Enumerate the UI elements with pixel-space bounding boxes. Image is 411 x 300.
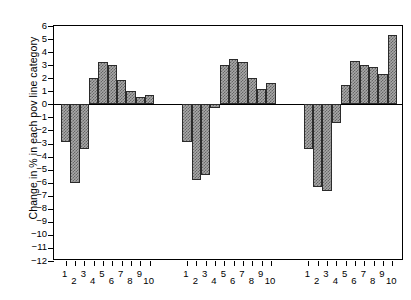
x-tick xyxy=(103,261,104,266)
y-tick-label: −11 xyxy=(21,242,47,252)
bar xyxy=(80,104,89,148)
x-tick xyxy=(206,261,207,266)
y-tick-label: −4 xyxy=(21,151,47,161)
bar xyxy=(117,80,126,104)
y-tick-label: −8 xyxy=(21,203,47,213)
x-tick xyxy=(271,261,272,266)
y-tick-label: 3 xyxy=(21,60,47,70)
x-tick xyxy=(140,261,141,266)
y-tick-label: 5 xyxy=(21,34,47,44)
y-tick-label: −9 xyxy=(21,216,47,226)
bar xyxy=(248,78,257,105)
bar xyxy=(257,89,266,105)
x-tick xyxy=(150,261,151,266)
x-tick xyxy=(308,261,309,266)
x-tick xyxy=(355,261,356,266)
bar xyxy=(98,62,107,104)
x-tick xyxy=(75,261,76,266)
y-tick-label: 1 xyxy=(21,86,47,96)
bar xyxy=(378,74,387,105)
bar xyxy=(238,62,247,104)
y-tick xyxy=(48,117,54,118)
y-tick xyxy=(48,78,54,79)
y-tick xyxy=(48,248,54,249)
bar xyxy=(182,104,191,141)
bar xyxy=(360,65,369,105)
y-tick xyxy=(48,157,54,158)
y-tick xyxy=(48,209,54,210)
x-tick xyxy=(215,261,216,266)
bar xyxy=(341,85,350,104)
bar xyxy=(388,35,397,104)
x-tick xyxy=(346,261,347,266)
x-tick xyxy=(364,261,365,266)
x-tick xyxy=(122,261,123,266)
x-tick-label: 10 xyxy=(263,276,277,286)
x-tick xyxy=(131,261,132,266)
plot-area xyxy=(53,25,403,260)
x-tick xyxy=(252,261,253,266)
x-tick xyxy=(187,261,188,266)
bar-chart: Change in % in each pov line category 65… xyxy=(0,0,411,300)
x-tick-label: 10 xyxy=(142,276,156,286)
x-tick xyxy=(66,261,67,266)
bar xyxy=(229,59,238,104)
x-tick xyxy=(224,261,225,266)
y-tick xyxy=(48,104,54,105)
bar xyxy=(210,104,219,107)
y-tick-label: −3 xyxy=(21,138,47,148)
x-tick xyxy=(336,261,337,266)
y-tick xyxy=(48,26,54,27)
bar xyxy=(61,104,70,142)
y-tick-label: −7 xyxy=(21,190,47,200)
x-tick xyxy=(84,261,85,266)
bar xyxy=(126,91,135,104)
y-tick xyxy=(48,39,54,40)
y-tick-label: 6 xyxy=(21,21,47,31)
x-tick xyxy=(374,261,375,266)
x-tick xyxy=(318,261,319,266)
bar xyxy=(192,104,201,180)
y-tick-label: −5 xyxy=(21,164,47,174)
y-tick xyxy=(48,183,54,184)
y-tick-label: −6 xyxy=(21,177,47,187)
y-tick-label: 2 xyxy=(21,73,47,83)
y-tick-label: −1 xyxy=(21,112,47,122)
y-tick xyxy=(48,52,54,53)
x-tick xyxy=(234,261,235,266)
x-tick xyxy=(383,261,384,266)
y-tick xyxy=(48,222,54,223)
y-tick xyxy=(48,130,54,131)
bar xyxy=(89,78,98,104)
bar xyxy=(136,97,145,104)
y-tick-label: −12 xyxy=(21,256,47,266)
bar xyxy=(332,104,341,123)
bar xyxy=(350,61,359,104)
y-tick-label: −10 xyxy=(21,229,47,239)
bar xyxy=(220,65,229,105)
x-tick xyxy=(262,261,263,266)
bar xyxy=(145,95,154,105)
bar xyxy=(108,65,117,104)
bar xyxy=(313,104,322,186)
x-tick xyxy=(196,261,197,266)
bar xyxy=(70,104,79,182)
x-tick xyxy=(243,261,244,266)
zero-line xyxy=(54,104,402,105)
x-tick xyxy=(94,261,95,266)
y-tick xyxy=(48,235,54,236)
y-tick-label: 4 xyxy=(21,47,47,57)
x-tick-label: 10 xyxy=(384,276,398,286)
x-tick xyxy=(392,261,393,266)
y-tick xyxy=(48,91,54,92)
x-tick xyxy=(112,261,113,266)
y-tick xyxy=(48,144,54,145)
y-tick-label: 0 xyxy=(21,99,47,109)
y-tick xyxy=(48,65,54,66)
y-tick xyxy=(48,170,54,171)
x-tick xyxy=(327,261,328,266)
bar xyxy=(369,67,378,104)
y-tick-label: −2 xyxy=(21,125,47,135)
bar xyxy=(201,104,210,175)
y-tick xyxy=(48,261,54,262)
